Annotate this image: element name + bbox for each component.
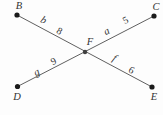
point-C-label: C	[152, 1, 160, 12]
segment-FE-variable-label: f	[111, 52, 121, 64]
point-B-label: B	[16, 0, 23, 11]
segment-FB-variable-label: b	[39, 14, 49, 26]
point-E-label: E	[150, 91, 158, 102]
point-F-dot	[83, 50, 87, 54]
segment-FE-value-label: 6	[127, 64, 137, 76]
segment-FC-variable-label: a	[102, 25, 112, 37]
point-F-label: F	[86, 36, 94, 47]
segment-FB-value-label: 8	[55, 25, 65, 37]
point-D-dot	[15, 84, 20, 89]
point-D-label: D	[12, 91, 21, 102]
point-C-dot	[151, 13, 156, 18]
segment-FC-value-label: 5	[121, 14, 130, 26]
point-B-dot	[14, 12, 19, 17]
point-E-dot	[149, 84, 154, 89]
segment-FD-value-label: 9	[49, 55, 58, 67]
geometry-figure: B C D E F b 8 a 5 g 9 f 6	[0, 0, 163, 115]
segment-FD-variable-label: g	[32, 66, 42, 78]
figure-canvas: B C D E F b 8 a 5 g 9 f 6	[0, 0, 163, 115]
